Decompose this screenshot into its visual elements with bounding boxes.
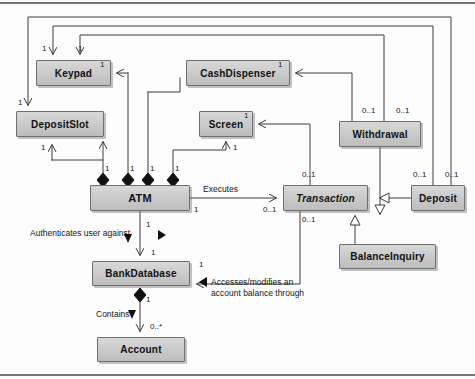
association-label-contains: Contains xyxy=(96,309,130,320)
multiplicity-atm-bankdatabase-bottom: 1 xyxy=(151,248,155,257)
class-name-keypad: Keypad xyxy=(55,68,92,79)
accesses-direction-marker xyxy=(199,277,207,287)
multiplicity-cashdispenser-assoc: 1 xyxy=(278,60,282,69)
edge-atm-cashdispenser-h xyxy=(148,78,180,92)
multiplicity-transaction-top: 0..1 xyxy=(302,170,315,179)
class-box-cashdispenser[interactable]: CashDispenser xyxy=(186,60,290,86)
multiplicity-withdrawal-right: 0..1 xyxy=(396,106,409,115)
multiplicity-atm-comp-1: 1 xyxy=(105,164,109,173)
class-box-transaction[interactable]: Transaction xyxy=(283,185,368,211)
multiplicity-atm-bankdatabase-top: 1 xyxy=(146,220,150,229)
multiplicity-atm-comp-2: 1 xyxy=(130,164,134,173)
executes-direction-marker xyxy=(158,230,166,240)
edge-withdrawal-cashdispenser xyxy=(296,73,352,121)
multiplicity-screen-assoc: 1 xyxy=(244,111,248,120)
multiplicity-deposit-left: 0..1 xyxy=(413,170,426,179)
multiplicity-deposit-right: 0..1 xyxy=(445,170,458,179)
class-box-deposit[interactable]: Deposit xyxy=(411,185,465,211)
uml-class-diagram-canvas: Keypad CashDispenser DepositSlot Screen … xyxy=(0,0,475,379)
multiplicity-transaction-executes: 0..1 xyxy=(263,205,276,214)
multiplicity-atm-comp-3: 1 xyxy=(150,164,154,173)
class-box-balanceinquiry[interactable]: BalanceInquiry xyxy=(339,244,436,269)
edge-atm-screen xyxy=(173,142,226,178)
class-box-account[interactable]: Account xyxy=(97,337,185,362)
multiplicity-bankdatabase-accesses: 1 xyxy=(199,260,203,269)
class-name-depositslot: DepositSlot xyxy=(31,119,89,130)
multiplicity-withdrawal-left: 0..1 xyxy=(362,106,375,115)
class-name-bankdatabase: BankDatabase xyxy=(105,268,176,279)
class-name-withdrawal: Withdrawal xyxy=(352,129,407,140)
edge-deposit-keypad xyxy=(53,26,433,185)
multiplicity-keypad-left: 1 xyxy=(42,44,46,53)
diamond-bankdatabase xyxy=(134,288,146,302)
class-box-atm[interactable]: ATM xyxy=(90,185,190,211)
multiplicity-depositslot-top: 1 xyxy=(18,98,22,107)
multiplicity-depositslot-bottom: 1 xyxy=(41,143,45,152)
class-box-depositslot[interactable]: DepositSlot xyxy=(16,111,104,137)
association-label-accesses-line1: Accesses/modifies an xyxy=(211,277,293,288)
association-label-authenticates: Authenticates user against xyxy=(30,228,130,239)
class-name-deposit: Deposit xyxy=(419,193,457,204)
class-name-transaction: Transaction xyxy=(296,193,355,204)
multiplicity-transaction-bottom: 0..1 xyxy=(302,215,315,224)
class-box-withdrawal[interactable]: Withdrawal xyxy=(339,121,421,147)
class-name-balanceinquiry: BalanceInquiry xyxy=(350,251,425,262)
multiplicity-atm-comp-4: 1 xyxy=(175,164,179,173)
multiplicity-keypad-assoc: 1 xyxy=(100,60,104,69)
class-name-cashdispenser: CashDispenser xyxy=(200,68,275,79)
multiplicity-keypad-right: 1 xyxy=(78,44,82,53)
association-label-executes: Executes xyxy=(203,184,238,195)
class-name-screen: Screen xyxy=(209,119,244,130)
multiplicity-screen-bottom: 1 xyxy=(233,143,237,152)
class-name-account: Account xyxy=(120,344,161,355)
association-label-accesses-line2: account balance through xyxy=(211,288,304,299)
multiplicity-bankdatabase-contains: 1 xyxy=(146,295,150,304)
class-box-bankdatabase[interactable]: BankDatabase xyxy=(92,261,190,286)
edge-transaction-bankdatabase xyxy=(197,211,300,284)
class-name-atm: ATM xyxy=(128,192,152,204)
multiplicity-atm-executes: 1 xyxy=(194,205,198,214)
multiplicity-account: 0..* xyxy=(150,322,162,331)
